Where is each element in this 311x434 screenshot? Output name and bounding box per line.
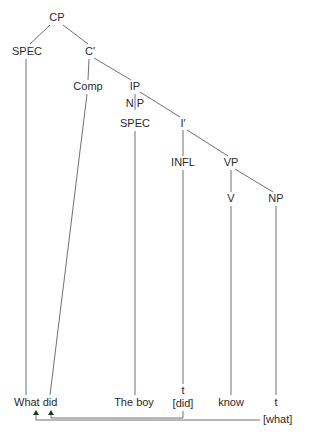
- what-movement-arrow: [36, 414, 260, 420]
- tree-edge: [187, 130, 228, 156]
- syntax-tree-diagram: CPSPECC′CompIPN PSPECI′INFLVPVNP What di…: [0, 0, 311, 434]
- node-cp: CP: [49, 11, 64, 23]
- node-ip: IP: [130, 80, 140, 92]
- tree-edge: [88, 59, 89, 80]
- tree-leaves: What didThe boyt[did]knowt[what]: [14, 384, 292, 425]
- tree-edges: [26, 25, 276, 395]
- did-movement-arrow: [51, 411, 183, 418]
- node-np2: NP: [268, 192, 283, 204]
- arrowhead-icon: [33, 410, 39, 415]
- tree-edge: [30, 25, 50, 44]
- tree-edge: [63, 25, 88, 44]
- node-spec2: SPEC: [120, 117, 150, 129]
- tree-nodes: CPSPECC′CompIPN PSPECI′INFLVPVNP: [12, 11, 284, 204]
- tree-edge: [94, 58, 131, 80]
- tree-edge: [50, 94, 87, 395]
- node-v: V: [227, 192, 235, 204]
- tree-edge: [235, 169, 273, 192]
- node-comp: Comp: [73, 80, 102, 92]
- node-vp: VP: [224, 156, 239, 168]
- leaf-what-did: What did: [14, 396, 57, 408]
- node-spec1: SPEC: [12, 45, 42, 57]
- leaf-the-boy: The boy: [114, 396, 154, 408]
- leaf-know: know: [218, 396, 244, 408]
- leaf-did-bracket: [did]: [173, 397, 194, 409]
- arrowhead-icon: [48, 410, 54, 415]
- node-np1: N P: [126, 97, 144, 109]
- node-cbar: C′: [85, 45, 95, 57]
- leaf-t-did-trace: t: [181, 384, 184, 396]
- movement-arrows: [33, 410, 260, 420]
- leaf-what-bracket: [what]: [263, 413, 292, 425]
- tree-edge: [140, 92, 180, 117]
- leaf-t-what-trace: t: [274, 396, 277, 408]
- node-ibar: I′: [180, 117, 185, 129]
- node-infl: INFL: [171, 156, 195, 168]
